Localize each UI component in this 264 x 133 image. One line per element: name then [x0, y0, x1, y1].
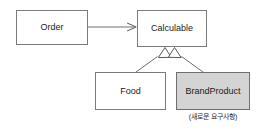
diagram-canvas: Order Calculable Food BrandProduct (새로운 …: [0, 0, 264, 133]
node-food[interactable]: Food: [95, 72, 166, 110]
edge-brandproduct-to-calculable: [168, 48, 203, 73]
edge-line: [182, 57, 204, 73]
node-calculable-label: Calculable: [151, 24, 193, 33]
node-order[interactable]: Order: [16, 10, 88, 45]
node-brandproduct-label: BrandProduct: [185, 87, 240, 96]
node-brandproduct[interactable]: BrandProduct: [176, 72, 250, 110]
edge-order-to-calculable: [88, 23, 136, 31]
node-calculable[interactable]: Calculable: [137, 10, 207, 47]
edge-line: [136, 57, 158, 73]
node-food-label: Food: [120, 87, 141, 96]
hollow-triangle-icon: [168, 48, 181, 58]
node-brandproduct-caption: (새로운 요구사항): [176, 113, 250, 120]
node-order-label: Order: [40, 23, 63, 32]
edge-food-to-calculable: [136, 48, 171, 73]
